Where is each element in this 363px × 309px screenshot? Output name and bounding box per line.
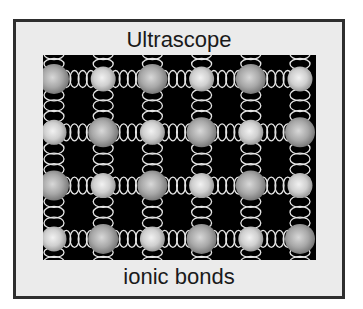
ultrascope-frame: Ultrascope ionic bonds	[13, 19, 345, 299]
figure-caption: ionic bonds	[16, 264, 342, 290]
small-ion-sphere	[91, 67, 116, 92]
small-ion-sphere	[140, 120, 165, 145]
horizontal-springs	[54, 71, 301, 248]
small-ion-sphere	[140, 226, 165, 251]
small-ion-sphere	[189, 173, 214, 198]
large-ion-sphere	[187, 117, 217, 147]
large-ion-sphere	[137, 64, 167, 94]
large-ion-sphere	[43, 171, 69, 201]
small-ion-sphere	[238, 226, 263, 251]
lattice-view	[43, 55, 316, 260]
figure-title: Ultrascope	[16, 27, 342, 53]
small-ion-sphere	[91, 173, 116, 198]
small-ion-sphere	[288, 173, 313, 198]
large-ion-sphere	[285, 117, 315, 147]
large-ion-sphere	[43, 64, 69, 94]
large-ion-sphere	[137, 171, 167, 201]
small-ion-sphere	[288, 67, 313, 92]
small-ion-sphere	[189, 67, 214, 92]
large-ion-sphere	[187, 224, 217, 254]
large-ion-sphere	[88, 224, 118, 254]
small-ion-sphere	[238, 120, 263, 145]
large-ion-sphere	[285, 224, 315, 254]
large-ion-sphere	[236, 171, 266, 201]
large-ion-sphere	[88, 117, 118, 147]
vertical-springs	[44, 55, 310, 260]
ions	[43, 64, 315, 254]
large-ion-sphere	[236, 64, 266, 94]
ionic-lattice-diagram	[43, 55, 316, 260]
